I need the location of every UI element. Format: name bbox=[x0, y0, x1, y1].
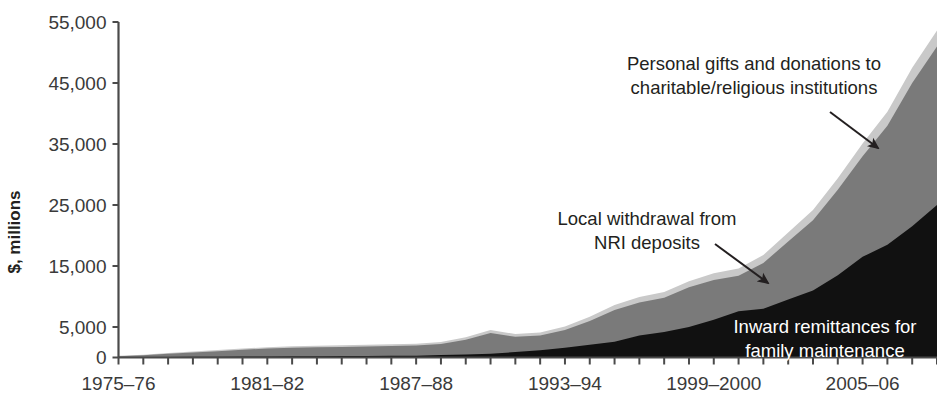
chart-figure: 05,00015,00025,00035,00045,00055,000 $, … bbox=[0, 0, 937, 404]
y-tick-label: 25,000 bbox=[48, 195, 106, 216]
x-tick-label: 1987–88 bbox=[379, 373, 453, 394]
annotation-gifts: Personal gifts and donations tocharitabl… bbox=[627, 53, 881, 98]
y-tick-label: 45,000 bbox=[48, 73, 106, 94]
y-axis-title: $, millions bbox=[5, 190, 24, 273]
annotation-nri: Local withdrawal fromNRI deposits bbox=[558, 208, 737, 253]
annotation-line: Personal gifts and donations to bbox=[627, 53, 881, 74]
annotation-line: Inward remittances for bbox=[733, 316, 916, 337]
annotation-line: Local withdrawal from bbox=[558, 208, 737, 229]
y-tick-label: 0 bbox=[96, 347, 107, 368]
y-axis-tick-labels: 05,00015,00025,00035,00045,00055,000 bbox=[48, 12, 106, 369]
annotation-line: family maintenance bbox=[745, 340, 904, 361]
annotation-line: NRI deposits bbox=[594, 232, 700, 253]
y-tick-label: 15,000 bbox=[48, 256, 106, 277]
y-tick-label: 5,000 bbox=[59, 317, 107, 338]
y-tick-label: 35,000 bbox=[48, 134, 106, 155]
x-axis-tick-labels: 1975–761981–821987–881993–941999–2000200… bbox=[82, 373, 900, 394]
x-tick-label: 1999–2000 bbox=[666, 373, 761, 394]
x-tick-label: 2005–06 bbox=[826, 373, 900, 394]
x-tick-label: 1981–82 bbox=[230, 373, 304, 394]
annotation-line: charitable/religious institutions bbox=[631, 77, 878, 98]
stacked-area-chart: 05,00015,00025,00035,00045,00055,000 $, … bbox=[0, 0, 937, 404]
x-tick-label: 1993–94 bbox=[528, 373, 602, 394]
x-axis: 1975–761981–821987–881993–941999–2000200… bbox=[82, 358, 937, 394]
y-tick-label: 55,000 bbox=[48, 12, 106, 33]
y-axis: 05,00015,00025,00035,00045,00055,000 $, … bbox=[5, 12, 119, 369]
x-tick-label: 1975–76 bbox=[82, 373, 156, 394]
annotation-arrow-gifts bbox=[830, 112, 878, 148]
